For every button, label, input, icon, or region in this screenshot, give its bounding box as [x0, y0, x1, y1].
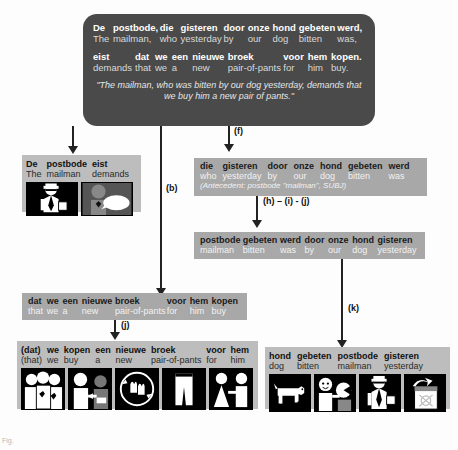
word-source: gisteren [384, 351, 429, 361]
word-gloss: pair-of-pants [151, 355, 206, 365]
word-source: nieuwe [192, 51, 227, 62]
word-gloss: demands [92, 169, 134, 179]
we-buy-gloss: (dat)wekopeneennieuwebroekvoorhem (that)… [21, 345, 254, 365]
word-source: onze [294, 161, 321, 171]
word-source: kopen [212, 296, 241, 306]
word-gloss: dog [352, 245, 377, 255]
word-source: dat [28, 296, 47, 306]
word-source: postbode [47, 159, 93, 169]
word-source: werd [280, 235, 305, 245]
arrow-label-f: (f) [234, 126, 243, 136]
word-gloss: a [95, 355, 115, 365]
word-gloss: for [167, 306, 190, 316]
arrowhead-j [110, 332, 120, 340]
dog-bit-source-line: hondgebetenpostbodegisteren [269, 351, 446, 361]
source-sentence-box: Depostbode,diegisterendooronzehondgebete… [83, 14, 375, 126]
word-source: hond [269, 351, 297, 361]
word-source: gisteren [181, 22, 224, 33]
word-gloss: him [190, 306, 212, 316]
arrowhead-mailman-demands [68, 146, 78, 154]
dog-bit-gloss-line: dogbittenmailmanyesterday [269, 361, 446, 371]
connector-b [160, 126, 162, 290]
word-source: we [47, 296, 63, 306]
word-gloss: him [231, 355, 254, 365]
top-gloss-line-1: Themailman,whoyesterdaybyourdogbittenwas… [93, 33, 365, 44]
word-gloss: we [47, 355, 64, 365]
word-source: eist [92, 159, 134, 169]
mailman-demands-panel: Depostbodeeist Themailmandemands [22, 155, 141, 212]
word-source: kopen [64, 345, 95, 355]
word-source: De [26, 159, 47, 169]
mailman-pictogram [26, 182, 78, 216]
dog-bit-mailman-panel: hondgebetenpostbodegisteren dogbittenmai… [265, 347, 450, 409]
word-source: gisteren [223, 161, 268, 171]
arrow-label-k: (k) [348, 303, 359, 313]
word-gloss: that [28, 306, 47, 316]
we-buy-pictograms [21, 368, 254, 410]
word-gloss: pair-of-pants [228, 62, 284, 73]
connector-f [228, 126, 230, 146]
subordinate-clause-box: datweeennieuwebroekvoorhemkopen thatwean… [22, 293, 247, 320]
word-source: door [224, 22, 248, 33]
word-gloss: buy [64, 355, 95, 365]
mailman-pictogram [359, 374, 401, 412]
bite-pictogram [314, 374, 356, 412]
word-gloss: demands [93, 62, 135, 73]
word-gloss: mailman [200, 245, 243, 255]
word-source: voor [167, 296, 190, 306]
word-source: gebeten [348, 161, 389, 171]
top-source-line-2: eistdatweeennieuwebroekvoorhemkopen. [93, 51, 365, 62]
word-source: postbode [338, 351, 385, 361]
word-source: die [160, 22, 181, 33]
word-gloss: pair-of-pants [115, 306, 167, 316]
word-gloss: we [47, 306, 63, 316]
arrow-label-hij: (h) – (i) - (j) [263, 196, 310, 206]
word-gloss: for [283, 62, 307, 73]
for-him-pictogram [209, 368, 253, 410]
word-source: gisteren [378, 235, 419, 245]
word-source: hem [308, 51, 331, 62]
word-source: hond [320, 161, 348, 171]
word-source: postbode, [113, 22, 160, 33]
mailman-demands-source-line: Depostbodeeist [26, 159, 137, 169]
word-source: eist [93, 51, 135, 62]
arrow-label-b: (b) [166, 183, 178, 193]
word-gloss: dog [273, 33, 299, 44]
word-gloss: new [116, 355, 151, 365]
word-source: we [47, 345, 64, 355]
word-gloss: yesterday [384, 361, 429, 371]
word-source: werd, [337, 22, 365, 33]
word-gloss: was, [337, 33, 365, 44]
word-gloss: our [328, 245, 352, 255]
word-source: een [172, 51, 192, 62]
pants-pictogram [162, 368, 206, 410]
word-gloss: dog [320, 171, 348, 181]
word-source: door [305, 235, 329, 245]
word-source: voor [283, 51, 307, 62]
word-source: nieuwe [116, 345, 151, 355]
word-source: werd [389, 161, 416, 171]
word-gloss: bitten [297, 361, 338, 371]
relative-clause-gloss-line: whoyesterdaybyourdogbittenwas [200, 171, 421, 181]
word-source: gebeten [297, 351, 338, 361]
exchange-hands-pictogram [115, 368, 159, 410]
word-gloss: The [93, 33, 113, 44]
word-source: (dat) [21, 345, 47, 355]
word-gloss: The [26, 169, 47, 179]
mailman-demands-pictograms [26, 182, 137, 216]
connector-to-mailman-demands [72, 126, 74, 148]
passive-reordered-box: postbodegebetenwerddooronzehondgisteren … [194, 232, 425, 259]
yesterday-calendar-pictogram [404, 374, 446, 412]
word-gloss: we [155, 62, 172, 73]
connector-hij [256, 196, 258, 222]
word-gloss: new [192, 62, 227, 73]
word-gloss: for [206, 355, 230, 365]
word-gloss: buy. [331, 62, 365, 73]
word-source: onze [328, 235, 352, 245]
mailman-demands-gloss-line: Themailmandemands [26, 169, 137, 179]
relative-clause-box: diegisterendooronzehondgebetenwerd whoye… [194, 158, 427, 196]
word-source: een [63, 296, 82, 306]
word-source: De [93, 22, 113, 33]
word-gloss: a [172, 62, 192, 73]
word-gloss: him [308, 62, 331, 73]
